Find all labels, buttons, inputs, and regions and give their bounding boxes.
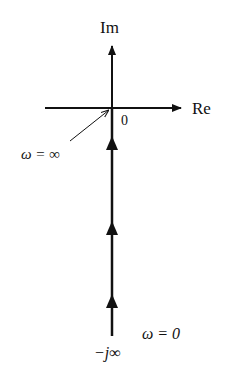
omega-infinity-pointer (70, 110, 109, 141)
im-label: Im (100, 18, 119, 37)
direction-arrow-icon (106, 294, 118, 308)
origin-label: 0 (121, 113, 128, 128)
re-label: Re (192, 99, 211, 118)
direction-arrow-icon (106, 136, 118, 150)
omega-infinity-label: ω = ∞ (21, 146, 60, 162)
nyquist-diagram: Im Re 0 ω = ∞ ω = 0 −j∞ (0, 0, 225, 379)
direction-arrow-icon (106, 221, 118, 235)
omega-zero-label: ω = 0 (142, 325, 180, 342)
minus-j-infinity-label: −j∞ (94, 344, 121, 362)
